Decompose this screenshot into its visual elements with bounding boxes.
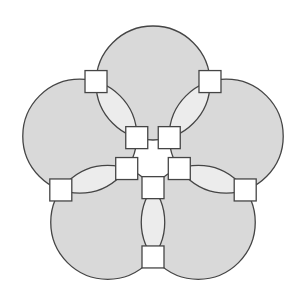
- diagram-canvas: [0, 0, 306, 302]
- outer-node-square: [234, 179, 256, 201]
- pentagon-circle-diagram: [0, 0, 306, 302]
- outer-node-square: [199, 71, 221, 93]
- outer-node-square: [50, 179, 72, 201]
- inner-node-square: [142, 177, 164, 199]
- inner-node-square: [116, 158, 138, 180]
- outer-node-square: [142, 246, 164, 268]
- inner-node-square: [168, 158, 190, 180]
- outer-node-square: [85, 71, 107, 93]
- inner-node-square: [158, 127, 180, 149]
- inner-node-square: [126, 127, 148, 149]
